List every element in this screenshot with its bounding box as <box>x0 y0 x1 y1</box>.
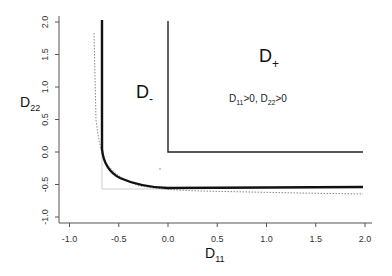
y-tick-label: 1.5 <box>40 48 50 61</box>
condition-label: D11>0, D22>0 <box>229 93 287 106</box>
dotted-curve <box>94 33 363 194</box>
x-tick-label: 1.5 <box>309 234 322 244</box>
x-tick-label: 0.0 <box>162 234 175 244</box>
x-tick-label: -1.0 <box>62 234 78 244</box>
d-plus-boundary <box>168 21 363 152</box>
y-axis-label: D22 <box>20 94 40 113</box>
y-ticks: -1.0-0.50.00.51.01.52.0 <box>40 16 59 225</box>
x-ticks: -1.0-0.50.00.51.01.52.0 <box>62 223 372 244</box>
y-tick-label: 0.0 <box>40 146 50 159</box>
y-tick-label: -0.5 <box>40 177 50 193</box>
x-tick-label: -0.5 <box>111 234 127 244</box>
d-minus-boundary <box>102 20 363 188</box>
region-plus-label: D+ <box>259 46 279 71</box>
chart: -1.0-0.50.00.51.01.52.0 -1.0-0.50.00.51.… <box>0 0 392 276</box>
region-minus-label: D- <box>136 82 153 106</box>
y-tick-label: 1.0 <box>40 81 50 94</box>
x-tick-label: 0.5 <box>211 234 224 244</box>
x-axis-label: D11 <box>205 245 224 264</box>
y-tick-label: 0.5 <box>40 113 50 126</box>
y-tick-label: 2.0 <box>40 16 50 29</box>
x-tick-label: 2.0 <box>359 234 372 244</box>
y-tick-label: -1.0 <box>40 209 50 225</box>
x-tick-label: 1.0 <box>260 234 273 244</box>
stray-point <box>159 168 161 170</box>
